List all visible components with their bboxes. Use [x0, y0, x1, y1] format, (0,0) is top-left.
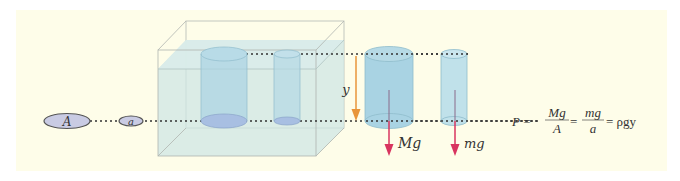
- svg-text:mg: mg: [464, 136, 485, 151]
- svg-text:mg: mg: [585, 105, 601, 120]
- submerged-large-cylinder: [201, 47, 247, 128]
- svg-text:a: a: [128, 116, 134, 127]
- submerged-small-cylinder: [274, 50, 300, 125]
- svg-text:a: a: [590, 121, 597, 136]
- area-disk-a: a: [119, 116, 143, 127]
- svg-text:= ρgy: = ρgy: [606, 114, 637, 129]
- area-disk-A: A: [44, 114, 90, 129]
- svg-text:Mg: Mg: [397, 135, 421, 151]
- svg-text:A: A: [552, 121, 561, 136]
- svg-text:y: y: [341, 82, 350, 97]
- pressure-equation: P = Mg A = mg a = ρgy: [511, 105, 637, 136]
- svg-text:=: =: [570, 114, 577, 129]
- pressure-diagram: A a y Mg mg P =: [0, 0, 680, 181]
- water-tank: [158, 21, 344, 156]
- svg-text:P =: P =: [511, 114, 531, 129]
- svg-text:Mg: Mg: [547, 105, 566, 120]
- small-cylinder: [441, 50, 467, 126]
- svg-text:A: A: [62, 115, 72, 129]
